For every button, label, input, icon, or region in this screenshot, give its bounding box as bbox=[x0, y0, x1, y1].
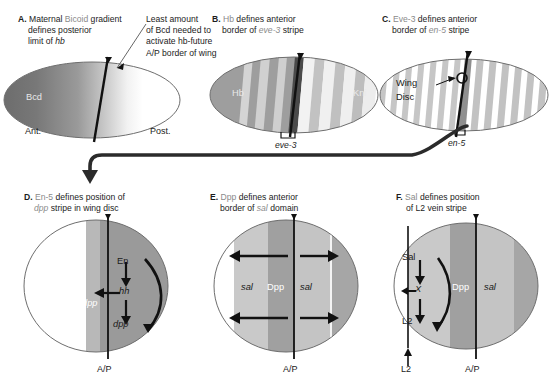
panel-c-caption-line2-gene: en-5 bbox=[429, 25, 446, 35]
panel-b-caption: B. Hb defines anterior border of eve-3 s… bbox=[212, 14, 304, 36]
panel-a-caption-line3-pre: limit of bbox=[28, 36, 55, 46]
panel-e-caption-line2-gene: sal bbox=[257, 203, 268, 213]
panel-e-sal-right-label: sal bbox=[300, 282, 312, 292]
panel-f-sal-label: sal bbox=[484, 282, 496, 292]
panel-a-bcd-label: Bcd bbox=[26, 92, 42, 102]
panel-f-caption-gene: Sal bbox=[405, 192, 417, 202]
panel-d-caption-line2-gene: dpp bbox=[34, 203, 48, 213]
panel-b-caption-line2-pre: border of bbox=[222, 25, 259, 35]
panel-f: F. Sal defines position of L2 vein strip… bbox=[372, 186, 553, 389]
panel-b-caption-line2: border of eve-3 stripe bbox=[212, 25, 304, 36]
panel-d-caption: D. En-5 defines position of dpp stripe i… bbox=[24, 192, 125, 214]
panel-b-kni-label: Kni bbox=[353, 88, 366, 98]
panel-e-caption: E. Dpp defines anterior border of sal do… bbox=[210, 192, 298, 214]
panel-f-ap-label: A/P bbox=[465, 364, 480, 374]
panel-c-caption-line2-pre: border of bbox=[392, 25, 429, 35]
panel-f-caption: F. Sal defines position of L2 vein strip… bbox=[396, 192, 480, 214]
panel-e-top-marker-icon bbox=[291, 214, 297, 220]
panel-e-regions bbox=[198, 214, 383, 359]
panel-e-caption-line2: border of sal domain bbox=[210, 203, 298, 214]
figure-root: A. Maternal Bicoid gradient defines post… bbox=[0, 0, 553, 389]
panel-b-letter: B. bbox=[212, 14, 221, 24]
panel-a-caption-line3-gene: hb bbox=[55, 36, 65, 46]
panel-f-dpp-label: Dpp bbox=[452, 282, 469, 292]
panel-e-caption-line2-post: domain bbox=[268, 203, 299, 213]
panel-e: E. Dpp defines anterior border of sal do… bbox=[190, 186, 375, 389]
annotation-leader-line bbox=[104, 20, 174, 90]
panel-c-caption: C. Eve-3 defines anterior border of en-5… bbox=[382, 14, 477, 36]
panel-e-dpp-label: Dpp bbox=[267, 282, 284, 292]
panel-a-caption-gene: Bicoid bbox=[65, 14, 88, 24]
panel-d-caption-post: defines position of bbox=[53, 192, 125, 202]
panel-d-dpp-stripe-label: dpp bbox=[82, 298, 98, 308]
panel-e-sal-left-label: sal bbox=[241, 282, 253, 292]
l2-bottom-arrowhead-icon bbox=[404, 348, 412, 356]
panel-b-caption-line2-gene: eve-3 bbox=[259, 25, 281, 35]
panel-f-caption-post: defines position bbox=[418, 192, 480, 202]
panel-f-l2-cascade-label: L2 bbox=[402, 316, 412, 326]
panel-e-caption-line2-pre: border of bbox=[220, 203, 257, 213]
panel-d-en-label: En bbox=[117, 256, 128, 266]
panel-d-letter: D. bbox=[24, 192, 33, 202]
panel-f-letter: F. bbox=[396, 192, 403, 202]
panel-c-caption-line2-post: stripe bbox=[446, 25, 469, 35]
panel-c-caption-post: defines anterior bbox=[415, 14, 477, 24]
panel-d-caption-line2-post: stripe in wing disc bbox=[48, 203, 118, 213]
panel-f-caption-line2: of L2 vein stripe bbox=[396, 203, 480, 214]
panel-e-wingdisc-diagram bbox=[198, 214, 383, 359]
panel-c-wingdisc-label-line2: Disc bbox=[396, 92, 414, 102]
panel-e-caption-post: defines anterior bbox=[236, 192, 298, 202]
panel-d-regions bbox=[8, 214, 198, 359]
panel-d: D. En-5 defines position of dpp stripe i… bbox=[0, 186, 190, 389]
panel-d-caption-gene: En-5 bbox=[35, 192, 53, 202]
panel-e-ap-label: A/P bbox=[283, 364, 298, 374]
panel-d-top-marker-icon bbox=[105, 214, 111, 220]
panel-f-l2-axis-label: L2 bbox=[401, 364, 411, 374]
row-connector-arrow bbox=[62, 120, 482, 190]
panel-b-caption-line2-post: stripe bbox=[280, 25, 303, 35]
panel-a-anterior-label: Ant. bbox=[25, 126, 41, 136]
panel-c-caption-line2: border of en-5 stripe bbox=[382, 25, 477, 36]
panel-f-top-marker-icon bbox=[473, 214, 479, 220]
panel-b-caption-gene: Hb bbox=[223, 14, 234, 24]
panel-c-wingdisc-label-line1: Wing bbox=[396, 78, 417, 88]
panel-a-letter: A. bbox=[18, 14, 27, 24]
row-connector-arrowhead-icon bbox=[82, 170, 98, 184]
panel-d-dpp-cascade-label: dpp bbox=[113, 319, 129, 329]
panel-c-caption-gene: Eve-3 bbox=[393, 14, 415, 24]
panel-e-caption-gene: Dpp bbox=[221, 192, 237, 202]
panel-f-sal-cascade-label: Sal bbox=[402, 252, 415, 262]
panel-d-ap-label: A/P bbox=[97, 364, 112, 374]
panel-d-wingdisc-diagram bbox=[8, 214, 198, 359]
panel-d-hh-label: hh bbox=[119, 286, 129, 296]
panel-a-caption-pre: Maternal bbox=[29, 14, 65, 24]
panel-f-x-label: X bbox=[415, 284, 421, 294]
panel-b-hb-label: Hb bbox=[232, 88, 244, 98]
panel-b-caption-post: defines anterior bbox=[234, 14, 296, 24]
panel-e-letter: E. bbox=[210, 192, 218, 202]
panel-d-caption-line2: dpp stripe in wing disc bbox=[24, 203, 125, 214]
panel-c-letter: C. bbox=[382, 14, 391, 24]
